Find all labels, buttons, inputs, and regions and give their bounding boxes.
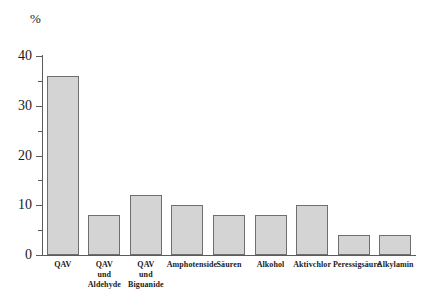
y-tick-label: 40 — [0, 49, 32, 63]
bar — [255, 215, 287, 255]
bar — [296, 205, 328, 255]
category-label-line: Biguanide — [125, 280, 167, 290]
category-label-line: Aktivchlor — [291, 260, 333, 270]
category-label-line: QAV — [42, 260, 84, 270]
bar — [338, 235, 370, 255]
bar — [130, 195, 162, 255]
y-axis-unit-label: % — [30, 12, 41, 26]
x-axis-line — [42, 255, 416, 256]
y-tick-label-text: 20 — [2, 149, 32, 163]
category-label-line: QAV — [125, 260, 167, 270]
bar — [47, 76, 79, 255]
bar — [88, 215, 120, 255]
category-label: Alkylamin — [374, 260, 416, 270]
bar-chart: % 010203040 QAVQAVundAldehydeQAVundBigua… — [0, 0, 426, 299]
y-tick-label-text: 30 — [2, 99, 32, 113]
y-tick-label: 10 — [0, 198, 32, 212]
category-label: Alkohol — [250, 260, 292, 270]
category-label-line: QAV — [84, 260, 126, 270]
category-label: QAV — [42, 260, 84, 270]
category-label-line: Amphotenside — [167, 260, 209, 270]
bar — [379, 235, 411, 255]
bar — [213, 215, 245, 255]
category-label: Aktivchlor — [291, 260, 333, 270]
y-tick-label-text: 40 — [2, 49, 32, 63]
category-label: Peressigsäure — [333, 260, 375, 270]
y-tick-label: 0 — [0, 248, 32, 262]
y-tick-label-text: 10 — [2, 198, 32, 212]
category-label-line: und — [125, 270, 167, 280]
y-tick-label: 30 — [0, 99, 32, 113]
category-label-line: Alkohol — [250, 260, 292, 270]
bar — [171, 205, 203, 255]
y-tick-label-text: 0 — [2, 248, 32, 262]
y-tick-major — [36, 255, 43, 256]
category-label: QAVundBiguanide — [125, 260, 167, 290]
category-label: QAVundAldehyde — [84, 260, 126, 290]
category-label: Amphotenside — [167, 260, 209, 270]
category-label-line: Aldehyde — [84, 280, 126, 290]
category-label-line: Peressigsäure — [333, 260, 375, 270]
category-label: Säuren — [208, 260, 250, 270]
y-tick-label: 20 — [0, 149, 32, 163]
category-label-line: Alkylamin — [374, 260, 416, 270]
category-label-line: Säuren — [208, 260, 250, 270]
category-label-line: und — [84, 270, 126, 280]
plot-area — [42, 56, 416, 255]
